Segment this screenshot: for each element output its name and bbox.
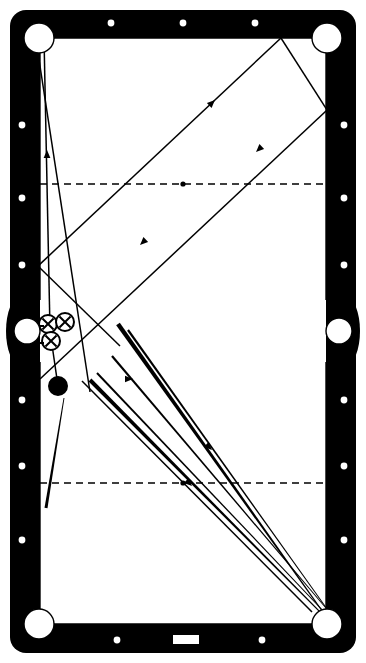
pocket-top-left <box>24 23 54 53</box>
pool-table-svg <box>0 0 366 663</box>
cue-ball-solid-circle <box>49 377 67 395</box>
pocket-top-right <box>312 23 342 53</box>
pool-table-diagram <box>0 0 366 663</box>
object-ball-x-2 <box>56 313 74 331</box>
pocket-bottom-right <box>312 609 342 639</box>
object-ball-x-3 <box>42 332 60 350</box>
object-ball-x-1 <box>39 315 57 333</box>
head-string-spot <box>180 181 185 186</box>
pocket-side-left <box>14 318 40 344</box>
pocket-side-right <box>326 318 352 344</box>
cue-ball-solid <box>49 377 67 395</box>
pocket-bottom-left <box>24 609 54 639</box>
table-rails <box>0 0 366 663</box>
